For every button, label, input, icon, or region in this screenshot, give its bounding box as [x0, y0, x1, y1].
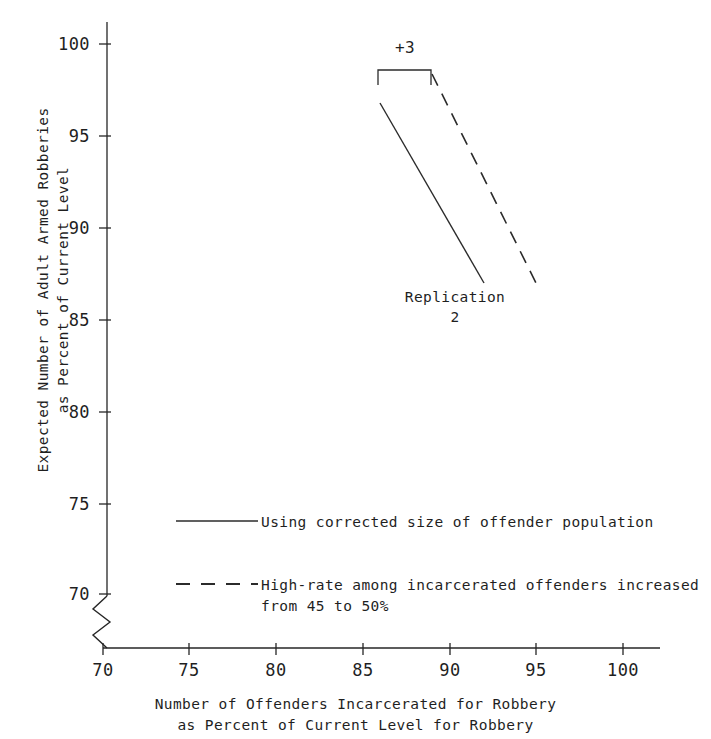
x-axis-title-line2: as Percent of Current Level for Robbery [0, 714, 711, 736]
legend-label-dashed-line2: from 45 to 50% [261, 596, 389, 617]
x-tick-label-70: 70 [80, 660, 126, 680]
y-tick-label-70: 70 [48, 584, 90, 604]
replication-number: 2 [385, 307, 525, 329]
x-tick-label-100: 100 [600, 660, 646, 680]
x-tick-label-95: 95 [513, 660, 559, 680]
replication-label: Replication [385, 287, 525, 309]
y-axis-break-zigzag [93, 596, 110, 648]
series-line-dashed [432, 74, 536, 283]
series-line-solid [380, 103, 484, 283]
x-tick-marks [103, 643, 623, 655]
legend-label-solid: Using corrected size of offender populat… [261, 512, 654, 533]
x-tick-label-90: 90 [427, 660, 473, 680]
legend-label-dashed-line1: High-rate among incarcerated offenders i… [261, 575, 699, 596]
x-tick-label-80: 80 [253, 660, 299, 680]
chart-figure: 100 95 90 85 80 75 70 70 75 80 85 90 95 … [0, 0, 711, 739]
x-tick-label-85: 85 [340, 660, 386, 680]
y-axis-title-line2: as Percent of Current Level [52, 10, 74, 570]
y-tick-marks [99, 44, 111, 594]
chart-canvas [0, 0, 711, 739]
x-tick-label-75: 75 [166, 660, 212, 680]
x-axis-title-line1: Number of Offenders Incarcerated for Rob… [0, 693, 711, 715]
bracket-label-plus-3: +3 [379, 38, 431, 57]
bracket-plus-3 [378, 70, 431, 85]
